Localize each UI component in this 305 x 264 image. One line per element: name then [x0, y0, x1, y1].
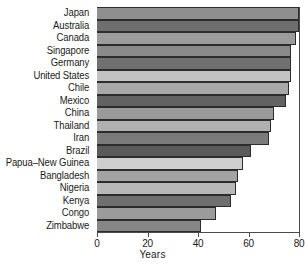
category-label: Nigeria: [5, 182, 93, 195]
category-label: Kenya: [5, 195, 93, 208]
x-axis-tick-label: 80: [284, 238, 305, 249]
bar-row: [97, 57, 299, 70]
category-axis-labels: Japan Australia Canada Singapore Germany…: [0, 7, 93, 232]
bar-row: [97, 170, 299, 183]
bar: [97, 182, 236, 195]
bar-row: [97, 70, 299, 83]
x-axis-title: Years: [0, 249, 305, 260]
bar: [97, 170, 238, 183]
bar: [97, 7, 299, 20]
bar-row: [97, 82, 299, 95]
bar-row: [97, 220, 299, 233]
bar-row: [97, 157, 299, 170]
x-axis-tick: [249, 232, 250, 237]
bar-chart: Japan Australia Canada Singapore Germany…: [0, 0, 305, 264]
bar-row: [97, 182, 299, 195]
bar: [97, 220, 201, 233]
x-axis-tick-label: 40: [183, 238, 213, 249]
bar: [97, 57, 291, 70]
x-axis-tick: [299, 232, 300, 237]
bar-row: [97, 132, 299, 145]
bar-row: [97, 145, 299, 158]
bar: [97, 70, 291, 83]
category-label: Congo: [5, 207, 93, 220]
bar: [97, 145, 251, 158]
bar: [97, 32, 296, 45]
category-label: Chile: [5, 82, 93, 95]
bar: [97, 82, 289, 95]
bar-row: [97, 107, 299, 120]
category-label: Canada: [5, 32, 93, 45]
category-label: Papua–New Guinea: [5, 157, 93, 170]
x-axis-tick-label: 0: [82, 238, 112, 249]
bar-row: [97, 7, 299, 20]
x-axis-tick: [97, 232, 98, 237]
bar: [97, 107, 274, 120]
bar: [97, 20, 299, 33]
bar-row: [97, 32, 299, 45]
x-axis-tick-label: 60: [234, 238, 264, 249]
x-axis-tick-label: 20: [133, 238, 163, 249]
category-label: China: [5, 107, 93, 120]
category-label: Bangladesh: [5, 170, 93, 183]
plot-area: [97, 7, 299, 232]
bar-row: [97, 120, 299, 133]
category-label: Mexico: [5, 95, 93, 108]
category-label: Singapore: [5, 45, 93, 58]
category-label: Iran: [5, 132, 93, 145]
bar-row: [97, 95, 299, 108]
bar-row: [97, 195, 299, 208]
category-label: Germany: [5, 57, 93, 70]
bar-row: [97, 207, 299, 220]
right-spine: [299, 7, 300, 233]
bar: [97, 157, 243, 170]
bar: [97, 207, 216, 220]
bar: [97, 45, 291, 58]
bar: [97, 132, 269, 145]
bar: [97, 95, 286, 108]
category-label: Thailand: [5, 120, 93, 133]
bar: [97, 120, 271, 133]
x-axis-tick: [198, 232, 199, 237]
bar-series: [97, 7, 299, 232]
category-label: United States: [5, 70, 93, 83]
category-label: Australia: [5, 20, 93, 33]
bar: [97, 195, 231, 208]
x-axis-tick: [148, 232, 149, 237]
category-label: Zimbabwe: [5, 220, 93, 233]
bar-row: [97, 45, 299, 58]
category-label: Brazil: [5, 145, 93, 158]
bar-row: [97, 20, 299, 33]
category-label: Japan: [5, 7, 93, 20]
